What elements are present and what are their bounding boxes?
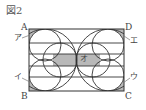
vertex-d-label: D xyxy=(125,23,132,32)
vertex-a-label: A xyxy=(21,23,28,32)
vertex-b-label: B xyxy=(21,92,28,101)
region-e-label: エ xyxy=(130,37,138,45)
vertex-c-label: C xyxy=(125,92,132,101)
region-u-label: ウ xyxy=(130,73,138,81)
region-a-label: ア xyxy=(14,34,22,42)
region-o-label: オ xyxy=(80,55,88,63)
region-i-label: イ xyxy=(14,73,22,81)
